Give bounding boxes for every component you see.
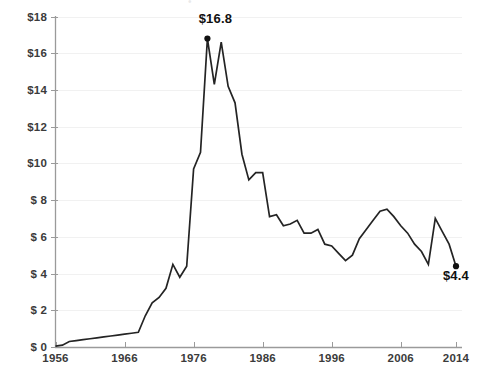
y-axis-ticks — [51, 18, 58, 348]
y-tick-label: $ 6 — [2, 231, 47, 243]
y-tick-label: $16 — [2, 47, 47, 59]
x-tick-label: 1996 — [302, 352, 362, 365]
peak-label: $16.8 — [185, 11, 245, 26]
clipped-title-artifact: • — [188, 0, 192, 7]
x-tick-label: 1976 — [164, 352, 224, 365]
chart-canvas — [0, 0, 482, 379]
y-tick-label: $ 2 — [2, 304, 47, 316]
peak-label-marker — [204, 35, 210, 41]
x-tick-label: 2014 — [426, 352, 482, 365]
y-tick-label: $18 — [2, 11, 47, 23]
y-tick-label: $ 8 — [2, 194, 47, 206]
x-tick-label: 2006 — [371, 352, 431, 365]
gridlines — [56, 18, 462, 311]
data-series-line — [56, 39, 457, 347]
x-tick-label: 1966 — [95, 352, 155, 365]
end-label: $4.4 — [426, 268, 482, 283]
y-tick-label: $10 — [2, 157, 47, 169]
y-tick-label: $14 — [2, 84, 47, 96]
y-tick-label: $12 — [2, 121, 47, 133]
x-tick-label: 1956 — [26, 352, 86, 365]
line-chart: $18$16$14$12$10$ 8$ 6$ 4$ 2$ 0 195619661… — [0, 0, 482, 379]
x-tick-label: 1986 — [233, 352, 293, 365]
y-tick-label: $ 4 — [2, 268, 47, 280]
